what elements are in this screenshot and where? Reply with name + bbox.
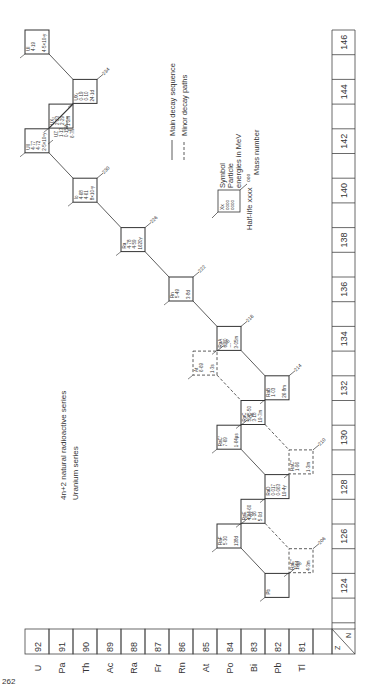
particle-energy: 6·69: [199, 363, 204, 373]
element-symbol: At: [201, 663, 211, 672]
nuclide-RaB: RaB1·0326·8m214: [265, 362, 303, 400]
n-value: 138: [339, 232, 349, 247]
element-symbol: Pb: [273, 662, 283, 673]
nuclide-RaF: RaF5·30138d210: [217, 510, 255, 548]
element-symbol: Rn: [177, 662, 187, 674]
minor-decay-line: [217, 375, 241, 400]
nuclide-RaE: RaE4·94·601·165·0d: [241, 499, 265, 523]
element-symbol: Ac: [105, 662, 115, 673]
n-value: 130: [339, 430, 349, 445]
half-life: 6·7h: [70, 129, 75, 139]
half-life: 26·8m: [282, 385, 287, 398]
n-value: 144: [339, 84, 349, 99]
particle-energy: 5·49: [175, 288, 180, 298]
element-symbol: Pa: [57, 662, 67, 673]
z-axis: 92U91Pa90Th89Ac88Ra87Fr86Rn85At84Po83Bi8…: [25, 629, 355, 674]
half-life: 1620y: [138, 237, 143, 250]
main-decay-line: [241, 449, 265, 474]
particle-energy: 1·03: [271, 387, 276, 397]
nuclide-RaC1: RaC′7·691·64μs214: [217, 412, 255, 450]
half-life: 19·7m: [258, 409, 263, 422]
half-life: 1·64μs: [234, 433, 239, 448]
corner-n-label: N: [345, 633, 352, 638]
z-value: 84: [225, 642, 235, 652]
legend-main: Main decay sequence: [168, 63, 177, 136]
half-life: 24·1d: [90, 89, 95, 101]
nuclide-Pb: Pb206: [265, 560, 303, 598]
particle-energy: 5·30: [223, 535, 228, 545]
z-value: 88: [129, 642, 139, 652]
particle-energy: 1·96: [295, 461, 300, 471]
title-line-2: Uranium series: [71, 446, 80, 500]
element-symbol: Po: [225, 662, 235, 673]
title-line-1: 4n+2 natural radioactive series: [59, 391, 68, 500]
nuclide-Io: Io4·684·618×10⁴y230: [73, 165, 111, 203]
main-decay-line: [193, 301, 217, 326]
n-value: 126: [339, 529, 349, 544]
n-value: 128: [339, 479, 349, 494]
minor-decay-line: [265, 425, 289, 450]
mass-number: 226: [148, 214, 158, 224]
element-symbol: Th: [81, 663, 91, 674]
legend-halflife-label: Half-life xxxx: [245, 187, 254, 230]
main-decay-line: [241, 350, 265, 375]
corner-z-label: Z: [334, 645, 341, 650]
minor-decay-line: [265, 523, 289, 548]
particle-energy: 7·69: [223, 437, 228, 447]
key-energy: oooo: [230, 199, 235, 210]
title: 4n+2 natural radioactive seriesUranium s…: [59, 391, 80, 500]
z-value: 81: [297, 642, 307, 652]
half-life: 8×10⁴y: [90, 185, 95, 200]
element-symbol: Tl: [297, 664, 307, 672]
half-life: 1·3s: [210, 364, 215, 374]
z-value: 89: [105, 642, 115, 652]
nuclide-UI: UI4·194·5×10⁹y: [25, 30, 49, 54]
legend-minor: Minor decay paths: [180, 74, 189, 136]
particle-energy: 0·10: [84, 91, 89, 101]
nuclide-RaC2: RaC″1·961·3m210: [289, 436, 327, 474]
half-life: 2·5×10⁵y: [42, 132, 47, 151]
z-value: 91: [57, 642, 67, 652]
half-life: 138d: [234, 535, 239, 546]
half-life: 3·8d: [186, 289, 191, 299]
nuclide-UII: UII4·774·722·5×10⁵y: [25, 129, 49, 153]
n-value: 140: [339, 183, 349, 198]
legend: Main decay sequenceMinor decay pathsXxoo…: [168, 63, 261, 230]
mass-number: 210: [316, 436, 326, 446]
half-life: 4·3m: [306, 560, 311, 571]
half-life: 5·0d: [258, 512, 263, 522]
uranium-series-diagram: 92U91Pa90Th89Ac88Ra87Fr86Rn85At84Po83Bi8…: [0, 0, 373, 686]
n-value: 142: [339, 134, 349, 149]
particle-energy: 4·72: [36, 140, 41, 150]
page-number: 262: [2, 677, 16, 686]
main-decay-line: [97, 202, 121, 227]
n-value: 132: [339, 381, 349, 396]
element-symbol: Ra: [129, 662, 139, 674]
z-value: 82: [273, 642, 283, 652]
nuclide-RaD: RaD0·0170·06319·4y: [265, 475, 289, 499]
mass-number: 230: [100, 165, 110, 175]
mass-number: 206: [316, 535, 326, 545]
z-value: 83: [249, 642, 259, 652]
main-decay-line: [49, 54, 73, 79]
z-value: 86: [177, 642, 187, 652]
mass-number: 222: [196, 263, 206, 273]
element-symbol: Bi: [249, 664, 259, 672]
particle-energy: 0·15%: [64, 124, 69, 137]
nuclide-symbol: Pb: [266, 588, 271, 594]
n-value: 124: [339, 578, 349, 593]
z-value: 90: [81, 642, 91, 652]
half-life: 1·3m: [306, 461, 311, 472]
particle-energy: 0·063: [276, 484, 281, 496]
z-value: 85: [201, 642, 211, 652]
mass-number: 214: [292, 362, 302, 372]
main-decay-line: [145, 252, 169, 277]
z-value: 87: [153, 642, 163, 652]
legend-mass-label: Mass number: [252, 129, 261, 175]
n-value: 136: [339, 282, 349, 297]
nuclide-UX1: UX₁0·190·1024·1d234: [73, 66, 111, 104]
element-symbol: Fr: [153, 664, 163, 673]
nuclide-At: At6·691·3s218: [193, 338, 231, 376]
z-value: 92: [33, 642, 43, 652]
element-symbol: U: [33, 665, 43, 672]
